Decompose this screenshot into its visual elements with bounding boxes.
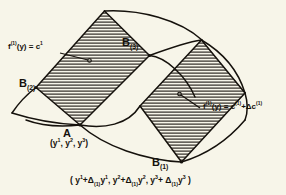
curve-left-tail — [12, 88, 36, 114]
a-coord-c1: , y — [61, 138, 70, 148]
bf-open: ( y — [70, 175, 80, 185]
label-b1-coords: ( y1+Δ(1)y1, y2+Δ(1)y2, y3+ Δ(1)y3 ) — [70, 176, 191, 185]
label-vertex-a-coords: (y1, y2, y3) — [50, 139, 88, 148]
a-coord-close: ) — [85, 138, 88, 148]
f2-plus: +Δc — [241, 102, 256, 111]
a-coord-c2: , y — [73, 138, 82, 148]
vertex-dot-b3 — [148, 54, 151, 57]
f2-arg: (y) — [212, 102, 222, 111]
right-cell-fill — [140, 40, 245, 162]
label-vertex-b1: B(1) — [152, 157, 168, 168]
bf-t2-plus: +Δ — [120, 175, 131, 185]
f1-arg: (y) — [17, 42, 27, 51]
vertex-dot-b1 — [180, 160, 183, 163]
b3-sub: (3) — [130, 43, 138, 50]
bf-sep2: , y — [146, 175, 155, 185]
f2-plus-sup: (1) — [256, 101, 262, 106]
bf-close: ) — [186, 175, 191, 185]
label-f1-equation: f(1)(y) = c1 — [8, 43, 43, 51]
label-vertex-b3: B(3) — [122, 37, 138, 48]
bf-t1-plus: +Δ — [83, 175, 94, 185]
vertex-dot-a — [78, 123, 81, 126]
b2-sub: (2) — [27, 84, 35, 91]
b2-base: B — [19, 77, 27, 89]
a-coord-open: (y — [50, 138, 58, 148]
right-hatched-cell — [140, 40, 245, 162]
label-vertex-b2: B(2) — [19, 78, 35, 89]
bf-t3-plus: + Δ — [158, 175, 171, 185]
bf-sep1: , y — [108, 175, 117, 185]
f1-relation: = — [27, 42, 36, 51]
b1-base: B — [152, 156, 160, 168]
f1-value-sup: 1 — [40, 41, 43, 46]
diagram-svg — [0, 0, 286, 195]
figure-canvas: f(1)(y) = c1 f(1)(y) = c(1)+Δc(1) B(3) B… — [0, 0, 286, 195]
b1-sub: (1) — [160, 163, 168, 170]
b3-base: B — [122, 36, 130, 48]
label-f2-equation: f(1)(y) = c(1)+Δc(1) — [203, 103, 262, 111]
f2-relation: = — [222, 102, 231, 111]
